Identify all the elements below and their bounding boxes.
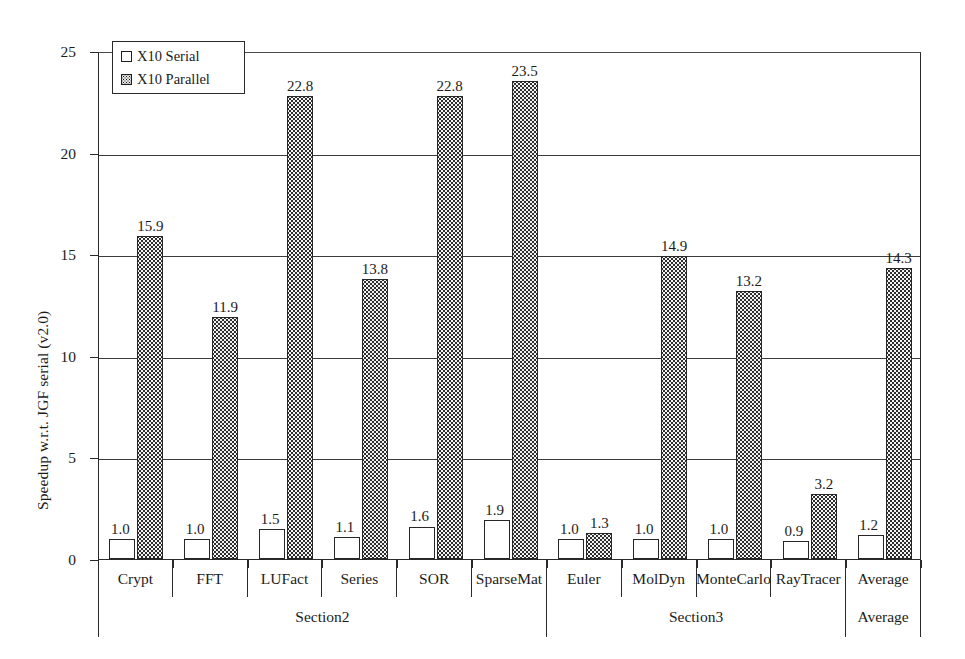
y-tick-mark: [90, 154, 98, 155]
section-label-section3: Section3: [547, 597, 846, 637]
bar-value-label-serial: 1.0: [186, 521, 205, 538]
category-label-average: Average: [846, 560, 921, 597]
category-label-series: Series: [322, 560, 397, 597]
x-axis-tick: [472, 560, 473, 568]
bar-value-label-parallel: 3.2: [814, 476, 833, 493]
bar-value-label-parallel: 13.2: [736, 273, 762, 290]
y-tick-label: 0: [32, 551, 76, 569]
section-label-section2: Section2: [98, 597, 547, 637]
x-axis-tick: [248, 560, 249, 568]
y-tick-mark: [90, 560, 98, 561]
bar-parallel: [362, 279, 388, 559]
y-tick-label: 10: [32, 348, 76, 366]
bar-serial: [409, 527, 435, 560]
x-axis-tick: [622, 560, 623, 568]
white-square-icon: [121, 51, 132, 62]
bar-value-label-parallel: 14.3: [885, 250, 911, 267]
x-axis-tick: [697, 560, 698, 568]
bar-parallel: [886, 268, 912, 559]
x-axis-tick: [771, 560, 772, 568]
bar-value-label-serial: 0.9: [784, 523, 803, 540]
bar-parallel: [661, 256, 687, 559]
section-label-average: Average: [846, 597, 921, 637]
bar-value-label-parallel: 11.9: [212, 299, 238, 316]
bar-serial: [484, 520, 510, 559]
bar-value-label-parallel: 22.8: [437, 78, 463, 95]
bar-value-label-parallel: 15.9: [137, 218, 163, 235]
bar-parallel: [586, 533, 612, 559]
bar-serial: [259, 529, 285, 559]
category-label-sor: SOR: [397, 560, 472, 597]
category-label-fft: FFT: [173, 560, 248, 597]
y-tick-mark: [90, 52, 98, 53]
bar-serial: [558, 539, 584, 559]
bar-parallel: [137, 236, 163, 559]
bar-value-label-serial: 1.1: [335, 519, 354, 536]
y-tick-mark: [90, 458, 98, 459]
y-tick-label: 5: [32, 449, 76, 467]
bar-value-label-parallel: 13.8: [362, 261, 388, 278]
bar-value-label-parallel: 22.8: [287, 78, 313, 95]
section-axis: Section2Section3Average: [98, 597, 921, 637]
y-axis: 0510152025: [0, 0, 98, 659]
bar-value-label-serial: 1.9: [485, 502, 504, 519]
y-tick-label: 25: [32, 43, 76, 61]
x-axis-tick: [547, 560, 548, 568]
x-axis-tick: [173, 560, 174, 568]
bar-serial: [184, 539, 210, 559]
x-axis-tick: [921, 560, 922, 568]
bar-value-label-serial: 1.5: [261, 511, 280, 528]
bar-value-label-serial: 1.0: [560, 521, 579, 538]
legend-label-serial: X10 Serial: [137, 48, 199, 65]
dotted-square-icon: [121, 74, 132, 85]
bar-value-label-parallel: 14.9: [661, 238, 687, 255]
legend-label-parallel: X10 Parallel: [137, 71, 210, 88]
bar-serial: [708, 539, 734, 559]
legend-entry-parallel: X10 Parallel: [121, 68, 238, 91]
x-axis-tick: [397, 560, 398, 568]
x-axis-tick: [98, 560, 99, 568]
x-axis-tick: [322, 560, 323, 568]
plot-area: 1.015.91.011.91.522.81.113.81.622.81.923…: [98, 52, 921, 560]
category-label-moldyn: MolDyn: [622, 560, 697, 597]
bar-value-label-serial: 1.0: [710, 521, 729, 538]
legend-entry-serial: X10 Serial: [121, 45, 238, 68]
bar-value-label-parallel: 1.3: [590, 515, 609, 532]
x-axis-tick: [846, 560, 847, 568]
bar-value-label-serial: 1.0: [635, 521, 654, 538]
bar-serial: [334, 537, 360, 559]
category-label-sparsemat: SparseMat: [472, 560, 547, 597]
bar-parallel: [811, 494, 837, 559]
bar-parallel: [437, 96, 463, 559]
category-label-lufact: LUFact: [248, 560, 323, 597]
category-axis: CryptFFTLUFactSeriesSORSparseMatEulerMol…: [98, 560, 921, 597]
category-label-crypt: Crypt: [98, 560, 173, 597]
y-tick-label: 15: [32, 246, 76, 264]
bar-serial: [783, 541, 809, 559]
bars-layer: 1.015.91.011.91.522.81.113.81.622.81.923…: [99, 53, 920, 559]
bar-parallel: [287, 96, 313, 559]
bar-serial: [858, 535, 884, 559]
speedup-bar-chart: Speedup w.r.t. JGF serial (v2.0) 0510152…: [0, 0, 965, 659]
bar-parallel: [512, 81, 538, 559]
bar-serial: [633, 539, 659, 559]
legend: X10 Serial X10 Parallel: [112, 41, 245, 94]
category-label-euler: Euler: [547, 560, 622, 597]
category-label-montecarlo: MonteCarlo: [697, 560, 772, 597]
bar-parallel: [736, 291, 762, 559]
bar-value-label-serial: 1.2: [859, 517, 878, 534]
category-label-raytracer: RayTracer: [771, 560, 846, 597]
y-tick-mark: [90, 357, 98, 358]
bar-parallel: [212, 317, 238, 559]
bar-serial: [109, 539, 135, 559]
bar-value-label-serial: 1.0: [111, 521, 130, 538]
y-tick-mark: [90, 255, 98, 256]
bar-value-label-serial: 1.6: [410, 508, 429, 525]
bar-value-label-parallel: 23.5: [511, 63, 537, 80]
y-tick-label: 20: [32, 145, 76, 163]
